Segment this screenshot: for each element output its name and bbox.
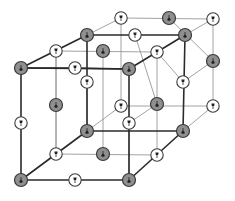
atom-grey bbox=[123, 174, 136, 187]
atom-grey bbox=[163, 12, 176, 25]
atom-grey bbox=[97, 148, 110, 161]
atom-white bbox=[151, 149, 163, 161]
atom-grey bbox=[151, 98, 164, 111]
atom-white bbox=[151, 46, 163, 58]
lattice-bond bbox=[169, 18, 213, 61]
atom-white bbox=[69, 174, 81, 186]
atom-white bbox=[50, 45, 62, 57]
atom-grey bbox=[50, 99, 63, 112]
atom-grey bbox=[179, 29, 192, 42]
lattice-bond bbox=[135, 35, 157, 104]
atom-white bbox=[207, 13, 219, 25]
atom-grey bbox=[15, 62, 28, 75]
atom-white bbox=[177, 76, 189, 88]
atom-grey bbox=[81, 29, 94, 42]
lattice-bond bbox=[75, 68, 129, 69]
atom-white bbox=[69, 62, 81, 74]
cubic-lattice-diagram bbox=[0, 0, 235, 201]
atom-grey bbox=[207, 55, 220, 68]
atom-grey bbox=[123, 63, 136, 76]
atom-white bbox=[81, 76, 93, 88]
atom-white bbox=[207, 100, 219, 112]
lattice-atoms bbox=[15, 12, 220, 187]
atom-grey bbox=[81, 125, 94, 138]
atom-white bbox=[123, 117, 135, 129]
atom-white bbox=[129, 29, 141, 41]
atom-grey bbox=[97, 45, 110, 58]
atom-white bbox=[15, 117, 27, 129]
atom-white bbox=[115, 12, 127, 24]
atom-grey bbox=[15, 174, 28, 187]
atom-white bbox=[115, 100, 127, 112]
atom-grey bbox=[177, 125, 190, 138]
atom-white bbox=[50, 148, 62, 160]
